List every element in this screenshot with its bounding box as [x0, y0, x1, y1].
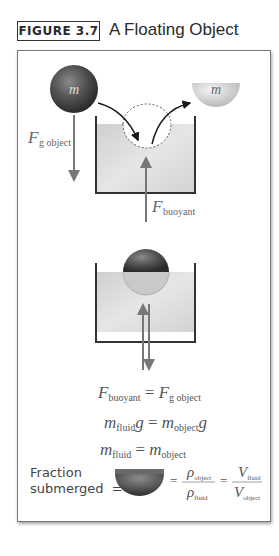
displaced-mass-label: m	[211, 82, 221, 97]
object-mass-label: m	[69, 82, 79, 97]
rho-object: ρobject	[187, 464, 211, 482]
rho-fluid: ρfluid	[187, 484, 207, 502]
v-object: Vobject	[234, 484, 260, 502]
equation-weights: mfluidg = mobjectg	[104, 413, 207, 433]
equation-buoyant-equals-gravity: Fbuoyant = Fg object	[98, 383, 201, 403]
floating-ball-icon	[123, 249, 169, 295]
equation-masses: mfluid = mobject	[100, 440, 186, 460]
fraction-equals-1: =	[170, 473, 177, 489]
buoyant-force-label: F	[151, 197, 163, 216]
gravity-force-sub: g object	[39, 137, 71, 148]
buoyant-force-sub: buoyant	[163, 206, 195, 217]
fraction-submerged-label: Fraction submerged =	[30, 465, 123, 497]
gravity-force-label: F	[27, 128, 39, 147]
v-fluid: Vfluid	[238, 464, 260, 482]
fraction-equals-2: =	[220, 473, 227, 489]
